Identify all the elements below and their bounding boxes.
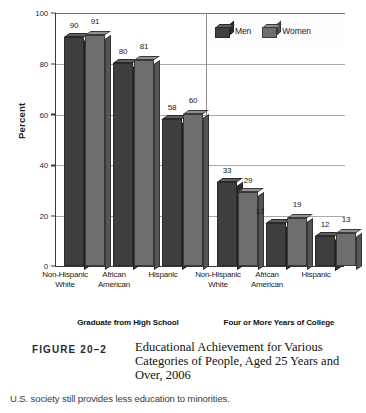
bar-face [287, 218, 307, 266]
bar-group-col-nonhispanic-white: 33 29 [217, 12, 269, 266]
bar-col-nonhispanic-white-men[interactable]: 33 [217, 182, 237, 266]
bar-group-hs-hispanic: 58 60 [162, 12, 214, 266]
bar-value: 91 [91, 17, 100, 26]
bar-col-african-american-men[interactable]: 17 [266, 223, 286, 266]
cube-icon [262, 24, 277, 38]
bar-top [336, 229, 362, 233]
figure-title: Educational Achievement for Various Cate… [135, 340, 350, 383]
legend: Men Women [209, 14, 342, 47]
gridline-0: 0 [56, 266, 345, 267]
y-tick-label-20: 20 [40, 212, 52, 221]
bar-value: 13 [342, 215, 351, 224]
bar-top [183, 110, 209, 114]
bar-face [315, 236, 335, 267]
x-label-hs-nonhispanic-white: Non-Hispanic White [37, 270, 93, 289]
bar-value: 19 [293, 200, 302, 209]
bar-value: 33 [223, 166, 232, 175]
bar-top [217, 178, 243, 182]
bar-value: 29 [244, 176, 253, 185]
bar-value: 60 [189, 96, 198, 105]
bar-face [183, 114, 203, 266]
y-tick-mark-40 [51, 165, 56, 167]
bar-face [217, 182, 237, 266]
bar-col-nonhispanic-white-women[interactable]: 29 [238, 192, 258, 266]
y-axis-title: Percent [16, 103, 27, 139]
bar-value: 80 [119, 47, 128, 56]
bar-face [113, 63, 133, 266]
bar-top [287, 214, 313, 218]
legend-label-women: Women [282, 26, 311, 36]
cube-icon [215, 24, 230, 38]
x-label-col-nonhispanic-white: Non-Hispanic White [190, 270, 246, 289]
panel-title-college: Four or More Years of College [209, 318, 349, 327]
y-tick-mark-80 [51, 63, 56, 65]
bar-col-hispanic-men[interactable]: 12 [315, 236, 335, 267]
bar-face [266, 223, 286, 266]
y-tick-label-60: 60 [40, 110, 52, 119]
bar-hs-nonhispanic-white-men[interactable]: 90 [64, 37, 84, 266]
y-tick-label-80: 80 [40, 59, 52, 68]
bar-side [105, 35, 111, 270]
bar-top [134, 56, 160, 60]
bar-group-hs-african-american: 80 81 [113, 12, 165, 266]
legend-entry-men[interactable]: Men [215, 24, 251, 38]
figure-subcaption: U.S. society still provides less educati… [10, 393, 230, 404]
bar-face [85, 35, 105, 266]
y-tick-mark-100 [51, 12, 56, 14]
y-tick-mark-0 [51, 265, 56, 267]
bar-group-hs-nonhispanic-white: 90 91 [64, 12, 116, 266]
bar-value: 58 [168, 103, 177, 112]
bar-face [64, 37, 84, 266]
bar-face [336, 233, 356, 266]
y-tick-label-40: 40 [40, 161, 52, 170]
bar-top [85, 31, 111, 35]
x-label-col-african-american: African American [239, 270, 295, 289]
bar-side [203, 114, 209, 270]
bar-side [154, 60, 160, 270]
panel-title-high-school: Graduate from High School [66, 318, 190, 327]
bar-face [238, 192, 258, 266]
bar-value: 12 [321, 220, 330, 229]
bar-value: 90 [70, 21, 79, 30]
bar-top [238, 188, 264, 192]
bar-side [258, 192, 264, 270]
legend-entry-women[interactable]: Women [262, 24, 311, 38]
bar-group-col-hispanic: 12 13 [315, 12, 366, 266]
bar-hs-hispanic-men[interactable]: 58 [162, 119, 182, 266]
x-label-hs-hispanic: Hispanic [135, 270, 191, 280]
x-label-hs-african-american: African American [86, 270, 142, 289]
figure-number: FIGURE 20–2 [32, 344, 107, 355]
bar-hs-african-american-women[interactable]: 81 [134, 60, 154, 266]
bar-hs-hispanic-women[interactable]: 60 [183, 114, 203, 266]
bar-hs-nonhispanic-white-women[interactable]: 91 [85, 35, 105, 266]
bar-group-col-african-american: 17 19 [266, 12, 318, 266]
bar-hs-african-american-men[interactable]: 80 [113, 63, 133, 266]
bar-col-hispanic-women[interactable]: 13 [336, 233, 356, 266]
y-tick-mark-20 [51, 215, 56, 217]
x-label-col-hispanic: Hispanic [288, 270, 344, 280]
bar-value: 81 [140, 42, 149, 51]
bar-value: 17 [256, 207, 265, 216]
bar-face [162, 119, 182, 266]
plot-area: 100 80 60 40 20 [55, 13, 344, 267]
bar-face [134, 60, 154, 266]
y-tick-label-100: 100 [35, 9, 51, 18]
y-tick-mark-60 [51, 114, 56, 116]
bar-col-african-american-women[interactable]: 19 [287, 218, 307, 266]
bar-side [307, 218, 313, 270]
bar-side [356, 233, 362, 270]
legend-label-men: Men [235, 26, 251, 36]
